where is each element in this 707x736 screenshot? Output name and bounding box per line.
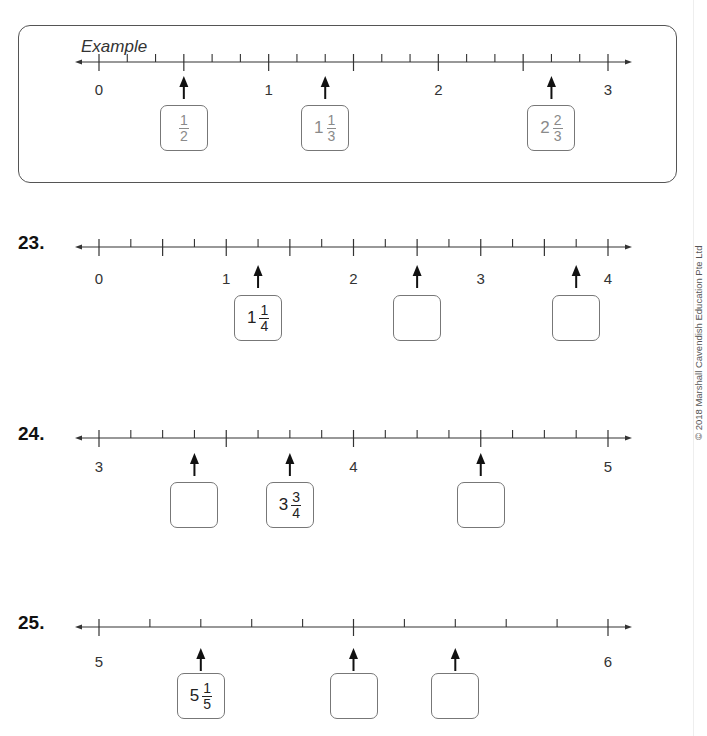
- answer-box-empty[interactable]: [431, 673, 479, 719]
- fraction: 15: [202, 681, 212, 712]
- denominator: 5: [203, 697, 211, 712]
- mixed-number: 515: [190, 681, 212, 712]
- arrow-left-icon: [75, 625, 82, 630]
- tick-label: 6: [604, 653, 612, 670]
- copyright-notice: © 2018 Marshall Cavendish Education Pte …: [693, 246, 704, 440]
- tick-label: 5: [95, 653, 103, 670]
- arrow-up-icon: [451, 648, 460, 659]
- arrow-up-icon: [349, 648, 358, 659]
- answer-box-empty[interactable]: [330, 673, 378, 719]
- arrow-right-icon: [625, 625, 632, 630]
- answer-box-filled: 515: [177, 673, 225, 719]
- number-line-q25: [0, 0, 707, 736]
- whole-part: 5: [190, 686, 199, 706]
- arrow-up-icon: [196, 648, 205, 659]
- numerator: 1: [202, 681, 212, 697]
